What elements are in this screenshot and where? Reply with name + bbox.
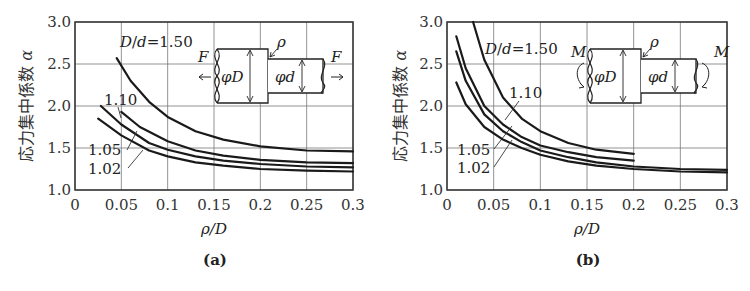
- x-tick-label: 0.25: [664, 196, 697, 214]
- y-tick-label: 2.5: [47, 55, 71, 73]
- x-tick-label: 0.05: [477, 196, 510, 214]
- y-tick-label: 3.0: [47, 13, 71, 31]
- series-label: 1.05: [457, 141, 490, 159]
- moment-M-left: M: [570, 43, 587, 61]
- series-label: D/d=1.50: [119, 33, 193, 51]
- diameter-d-label: φd: [275, 68, 295, 86]
- x-axis-label: ρ/D: [200, 220, 227, 238]
- series-label: 1.10: [509, 84, 542, 102]
- chart-panel-a: 00.050.10.150.20.250.31.01.52.02.53.0ρ/D…: [17, 13, 365, 269]
- x-tick-label: 0.3: [715, 196, 739, 214]
- y-axis-label: 応力集中係数 α: [17, 50, 36, 162]
- y-tick-label: 2.5: [419, 55, 443, 73]
- x-tick-label: 0.2: [248, 196, 272, 214]
- y-tick-label: 1.0: [47, 181, 71, 199]
- y-tick-label: 1.5: [47, 139, 71, 157]
- series-label: 1.02: [457, 159, 490, 177]
- diameter-d-label: φd: [648, 68, 668, 86]
- panel-caption: (a): [203, 251, 227, 269]
- curve-1-02: [98, 119, 353, 172]
- curve-1-05: [101, 106, 353, 167]
- curve-1-10: [121, 112, 353, 163]
- moment-M-right: M: [713, 43, 730, 61]
- shaft-diagram: φDφdρFF: [197, 33, 343, 103]
- y-tick-label: 2.0: [419, 97, 443, 115]
- series-label: 1.10: [104, 91, 137, 109]
- diameter-D-label: φD: [221, 68, 244, 86]
- load-F-right: F: [330, 48, 342, 66]
- y-axis-label: 応力集中係数 α: [391, 50, 410, 162]
- figure: 00.050.10.150.20.250.31.01.52.02.53.0ρ/D…: [0, 0, 750, 291]
- y-tick-label: 1.0: [419, 181, 443, 199]
- radius-rho-label: ρ: [276, 33, 286, 51]
- diameter-D-label: φD: [594, 68, 617, 86]
- load-F-left: F: [197, 48, 209, 66]
- x-tick-label: 0.2: [622, 196, 646, 214]
- x-axis-label: ρ/D: [573, 220, 600, 238]
- x-tick-label: 0.1: [528, 196, 552, 214]
- chart-panel-b: 00.050.10.150.20.250.31.01.52.02.53.0ρ/D…: [391, 13, 739, 269]
- panel-caption: (b): [576, 251, 601, 269]
- series-label: D/d=1.50: [484, 40, 558, 58]
- x-tick-label: 0.3: [341, 196, 365, 214]
- y-tick-label: 1.5: [419, 139, 443, 157]
- shaft-diagram: φDφdρMM: [570, 33, 730, 103]
- series-label: 1.02: [88, 160, 121, 178]
- y-tick-label: 3.0: [419, 13, 443, 31]
- y-tick-label: 2.0: [47, 97, 71, 115]
- x-tick-label: 0.25: [290, 196, 323, 214]
- x-tick-label: 0.05: [105, 196, 138, 214]
- radius-rho-label: ρ: [649, 33, 659, 51]
- x-tick-label: 0.1: [156, 196, 180, 214]
- x-tick-label: 0: [442, 196, 452, 214]
- x-tick-label: 0: [70, 196, 80, 214]
- x-tick-label: 0.15: [197, 196, 230, 214]
- series-label: 1.05: [88, 141, 121, 159]
- x-tick-label: 0.15: [570, 196, 603, 214]
